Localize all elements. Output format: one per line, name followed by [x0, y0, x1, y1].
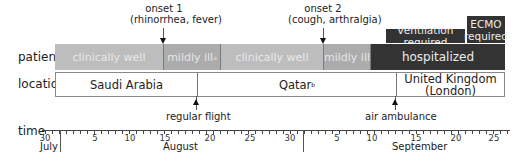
axis-tick	[430, 130, 431, 134]
axis-tick	[262, 130, 263, 134]
axis-tick	[234, 130, 235, 134]
axis-tick	[108, 130, 109, 134]
axis-tick	[465, 130, 466, 134]
location-label: Qatar	[279, 79, 311, 91]
axis-tick	[395, 130, 396, 134]
axis-tick	[353, 130, 354, 134]
axis-tick	[73, 130, 74, 134]
ventilation-required-box: ventilation required	[386, 29, 465, 43]
axis-tick	[311, 130, 312, 134]
segment-mildly-ill-1: mildly illa	[163, 44, 220, 70]
onset2-title: onset 2	[288, 3, 358, 14]
ecmo-required-box: ECMO required	[467, 16, 505, 43]
axis-tick	[66, 130, 67, 134]
ecmo-label-line2: required	[464, 30, 508, 42]
axis-tick	[171, 130, 172, 134]
regular-flight-label: regular flight	[166, 111, 226, 122]
axis-tick	[143, 130, 144, 134]
axis-tick	[199, 130, 200, 134]
location-label-line2: (London)	[425, 85, 476, 97]
segment-label: mildly ill	[324, 51, 370, 64]
axis-tick	[381, 130, 382, 134]
segment-label: clinically well	[73, 51, 146, 64]
axis-tick	[388, 130, 389, 134]
axis-tick	[297, 130, 298, 134]
tick-label: 10	[367, 133, 378, 143]
axis-tick	[479, 130, 480, 134]
axis-tick	[304, 130, 305, 134]
onset2-symptoms: (cough, arthralgia)	[288, 14, 358, 25]
axis-tick	[444, 130, 445, 134]
axis-tick	[101, 130, 102, 134]
ambulance-arrow-icon	[392, 99, 398, 105]
tick-label: 25	[489, 133, 500, 143]
tick-label: 5	[92, 133, 97, 143]
axis-tick	[360, 130, 361, 134]
ecmo-label-line1: ECMO	[470, 18, 501, 30]
location-saudi-arabia: Saudi Arabia	[56, 73, 197, 96]
axis-tick	[80, 130, 81, 134]
axis-tick	[136, 130, 137, 134]
tick-label: 10	[125, 133, 136, 143]
axis-tick	[325, 130, 326, 134]
segment-clinically-well-2: clinically well	[220, 44, 323, 70]
axis-tick	[437, 130, 438, 134]
month-label-july: July	[40, 141, 58, 152]
air-ambulance-label: air ambulance	[365, 111, 425, 122]
tick-label: 20	[205, 133, 216, 143]
axis-tick	[192, 130, 193, 134]
segment-clinically-well-1: clinically well	[55, 44, 163, 70]
axis-tick	[185, 130, 186, 134]
axis-tick	[486, 130, 487, 134]
location-label: Saudi Arabia	[90, 79, 163, 91]
axis-tick	[87, 130, 88, 134]
axis-tick	[178, 130, 179, 134]
month-separator-august-september	[303, 130, 304, 152]
axis-tick	[500, 130, 501, 134]
footnote-marker: b	[311, 79, 315, 91]
segment-hospitalized: hospitalized	[370, 44, 505, 70]
segment-mildly-ill-2: mildly ill	[323, 44, 370, 70]
onset1-title: onset 1	[130, 3, 198, 14]
axis-tick	[227, 130, 228, 134]
axis-tick	[472, 130, 473, 134]
axis-tick	[115, 130, 116, 134]
location-qatar: Qatarb	[197, 73, 396, 96]
axis-tick	[52, 130, 53, 134]
axis-tick	[122, 130, 123, 134]
axis-tick	[402, 130, 403, 134]
axis-tick	[241, 130, 242, 134]
segment-label: clinically well	[236, 51, 309, 64]
month-separator-july-august	[60, 130, 61, 152]
axis-tick	[318, 130, 319, 134]
axis-tick	[276, 130, 277, 134]
onset2-annotation: onset 2 (cough, arthralgia)	[288, 3, 358, 25]
axis-tick	[332, 130, 333, 134]
patient-status-bar: clinically well mildly illa clinically w…	[55, 44, 505, 70]
axis-tick	[150, 130, 151, 134]
flight-arrow-icon	[193, 99, 199, 105]
location-bar: Saudi Arabia Qatarb United Kingdom (Lond…	[55, 72, 505, 97]
tick-label: 25	[245, 133, 256, 143]
tick-label: 30	[285, 133, 296, 143]
axis-tick	[157, 130, 158, 134]
axis-tick	[423, 130, 424, 134]
tick-label: 5	[334, 133, 339, 143]
onset1-symptoms: (rhinorrhea, fever)	[130, 14, 198, 25]
location-label-line1: United Kingdom	[404, 73, 496, 85]
tick-label: 20	[451, 133, 462, 143]
segment-label: hospitalized	[402, 50, 474, 64]
axis-tick	[346, 130, 347, 134]
footnote-marker: a	[213, 54, 217, 61]
axis-tick	[269, 130, 270, 134]
axis-tick	[220, 130, 221, 134]
month-label-august: August	[163, 141, 198, 152]
location-united-kingdom: United Kingdom (London)	[396, 73, 504, 96]
axis-tick	[507, 130, 508, 134]
onset1-annotation: onset 1 (rhinorrhea, fever)	[130, 3, 198, 25]
month-label-september: September	[392, 141, 447, 152]
segment-label: mildly ill	[167, 51, 213, 64]
